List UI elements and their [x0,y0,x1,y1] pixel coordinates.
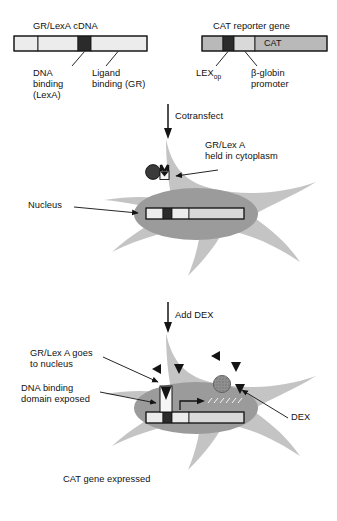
label-cat-segment: CAT [264,38,281,49]
gr-lexa-protein-bound-dna [160,386,172,412]
label-dna-binding-lexa-line2: binding [33,79,63,90]
leader-dna-binding-lexa [72,52,85,67]
label-dna-binding-lexa-line3: (LexA) [33,90,61,101]
label-beta-globin-line2: promoter [251,79,289,90]
dex-bound-receptor-circle [213,375,230,392]
label-gr-lexa-cdna: GR/LexA cDNA [33,21,98,32]
gr-lexa-protein-cytoplasm [146,165,169,180]
label-gr-lexa-goes-line2: to nucleus [30,359,73,370]
label-dex: DEX [291,412,310,423]
leader-nucleus [74,207,138,213]
figure-root: GR/LexA cDNA CAT reporter gene CAT DNA b… [0,0,337,521]
leader-beta-globin-promoter [245,52,257,67]
dex-triangle [152,364,161,374]
label-lex-op-subscript: op [214,73,221,80]
caption-cat-gene-expressed: CAT gene expressed [63,474,150,485]
dex-triangle [231,362,241,372]
reporter-gene-in-nucleus-bottom [146,412,244,423]
cotransfect-arrow [164,104,172,139]
leader-gr-lexa-goes-to-nucleus [103,357,158,382]
label-lex-op-main: LEX [196,68,214,78]
label-cotransfect: Cotransfect [175,111,223,122]
leader-gr-lexa-held [176,170,218,176]
reporter-gene-in-nucleus-top [146,208,244,219]
label-gr-lexa-goes-line1: GR/Lex A goes [30,348,93,359]
label-beta-globin-line1: β-globin [251,68,285,79]
dex-triangle [211,351,220,361]
label-dna-binding-exposed-line2: domain exposed [21,394,90,405]
label-dna-binding-lexa-line1: DNA [33,68,53,79]
label-ligand-binding-line2: binding (GR) [92,79,145,90]
label-gr-lexa-held-line1: GR/Lex A [205,140,245,151]
label-dna-binding-exposed-line1: DNA binding [21,383,73,394]
gr-lexa-cdna-construct [14,36,147,51]
label-add-dex: Add DEX [175,310,214,321]
label-gr-lexa-held-line2: held in cytoplasm [205,151,278,162]
leader-ligand-binding-gr [106,52,118,67]
label-ligand-binding-line1: Ligand [92,68,120,79]
cell-bottom [104,333,316,470]
leader-lex-op [216,52,228,67]
add-dex-arrow [164,302,172,333]
label-cat-reporter-gene: CAT reporter gene [213,21,290,32]
label-nucleus: Nucleus [28,200,62,211]
label-lex-op: LEXop [196,68,221,82]
